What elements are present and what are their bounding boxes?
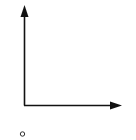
axes-diagram — [0, 0, 136, 140]
x-axis — [24, 102, 122, 110]
y-axis-arrowhead-icon — [21, 5, 29, 17]
x-axis-arrowhead-icon — [110, 102, 122, 110]
y-axis — [21, 5, 29, 106]
origin-marker-icon — [20, 132, 24, 136]
